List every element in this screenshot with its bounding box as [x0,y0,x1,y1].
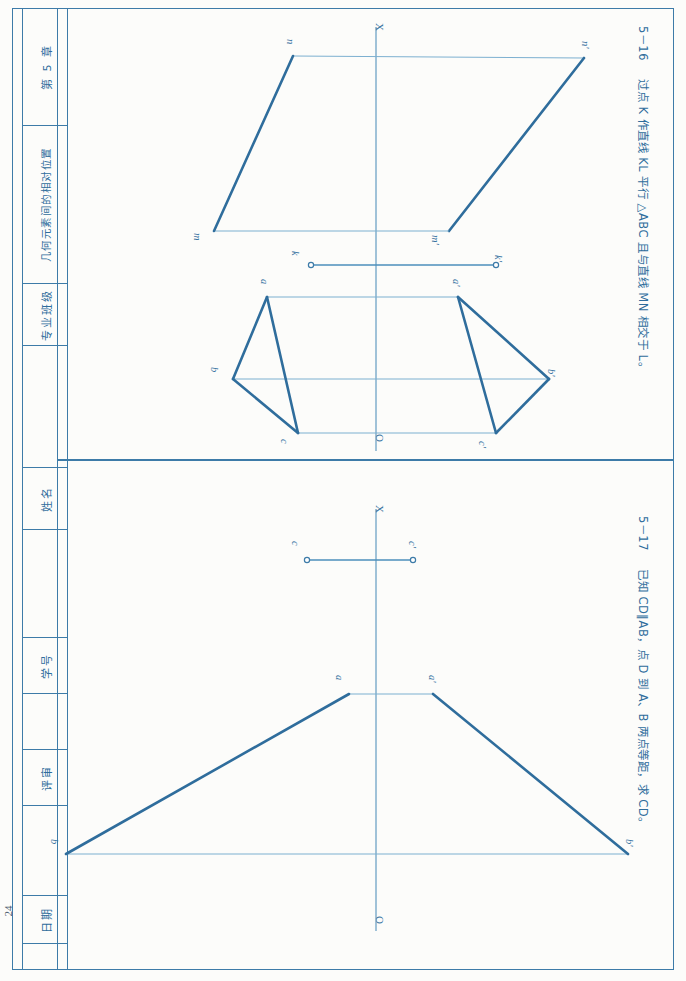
point-label-b: b [209,367,220,372]
point-label-c: c [279,439,290,444]
worksheet-page: 第 5 章 几何元素间的相对位置 专业班级 姓名 学号 评审 [0,0,686,981]
point-label-m-prime: m' [430,235,441,245]
axis-label-x-top: X [374,23,386,31]
title-block-label-name: 姓名 [38,486,54,512]
edge-a-b-bottom [66,694,349,854]
drawing-top-svg [58,9,675,461]
origin-label-o-top: O [374,434,386,442]
edge-nprime-mprime [449,58,584,231]
title-block-chapter-label: 第 5 章 [38,44,54,90]
edge-m-n [214,56,293,231]
title-block-label-date: 日期 [38,907,54,933]
point-label-c-prime: c' [477,441,488,448]
edge-c-a [267,297,298,433]
axis-label-x-bottom: X [374,505,386,513]
point-label-b-prime: b' [546,369,557,377]
point-label-c-bottom: c [290,541,301,546]
drawing-panel-bottom: X O c c' a a' b b' [57,460,674,970]
drawing-panel-top: X O n n' m m' k k' a a' b b' c c' [57,8,674,460]
point-label-a-bottom: a [334,675,345,680]
point-label-n: n [285,39,296,44]
edge-cprime-aprime [458,297,496,433]
edge-a-b [233,297,267,379]
edge-aprime-bprime-bottom [433,694,628,854]
point-label-b-prime-bottom: b' [624,839,635,847]
point-marker-kprime [493,262,498,267]
edge-bprime-cprime [496,379,549,433]
point-label-c-prime-bottom: c' [407,541,418,548]
point-label-m: m [192,233,203,241]
point-label-a-prime: a' [451,279,462,287]
title-block-label-major-class: 专业班级 [38,289,54,341]
title-block-label-review: 评审 [38,765,54,791]
drawing-bottom-svg [58,461,675,971]
point-label-n-prime: n' [580,41,591,49]
point-label-k-prime: k' [493,255,504,262]
origin-label-o-bottom: O [374,916,386,924]
point-marker-k [308,262,313,267]
title-block-label-student-id: 学号 [38,653,54,679]
page-number: 24 [2,901,14,921]
edge-aprime-bprime [458,297,549,379]
point-label-b-bottom: b [49,839,60,844]
point-label-k: k [290,251,301,256]
edge-b-c [233,379,298,433]
point-marker-c-bottom [304,557,309,562]
title-block-chapter-title-label: 几何元素间的相对位置 [38,147,53,262]
point-label-a-prime-bottom: a' [427,675,438,683]
edge-n-nprime [293,56,584,58]
point-label-a: a [259,279,270,284]
point-marker-cprime-bottom [410,557,415,562]
